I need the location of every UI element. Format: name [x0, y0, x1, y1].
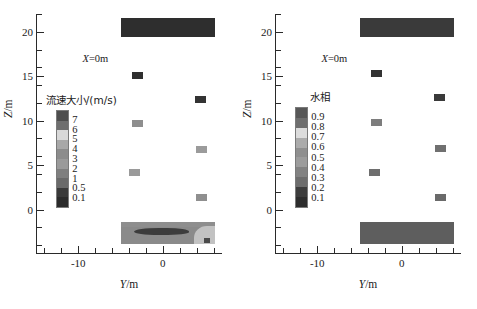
y-tick-minor	[276, 14, 281, 15]
x-tick-label: -10	[71, 258, 86, 269]
data-marker	[369, 169, 380, 176]
data-marker	[434, 94, 445, 101]
x-tick-minor	[95, 248, 96, 253]
colorbar-swatch	[57, 130, 68, 140]
x-tick-label: -10	[310, 258, 325, 269]
axis-title-y-left: Z/m	[2, 99, 14, 118]
colorbar-swatch	[296, 167, 307, 177]
region-top-slab	[360, 18, 455, 37]
data-marker	[132, 72, 143, 79]
y-tick-minor	[276, 227, 281, 228]
region-bottom-slab	[360, 222, 455, 244]
axis-title-x-right: Y/m	[275, 278, 461, 290]
x-tick-minor	[180, 248, 181, 253]
y-tick-major: 10	[276, 121, 283, 122]
data-marker	[435, 194, 446, 201]
data-marker	[196, 194, 207, 201]
colorbar-swatch	[57, 121, 68, 131]
axis-title-x-left: Y/m	[36, 278, 222, 290]
x-tick-minor	[385, 248, 386, 253]
x-axis-line-left	[36, 253, 222, 254]
y-tick-minor	[276, 138, 281, 139]
region-top-slab	[121, 18, 216, 37]
x-tick-label: 0	[160, 258, 166, 269]
colorbar-legend-right: 水相 0.90.80.70.60.50.40.30.20.1	[295, 107, 345, 208]
colorbar-swatch	[57, 169, 68, 179]
x-tick-major: 0	[402, 246, 403, 253]
y-tick-label: 5	[28, 160, 34, 171]
x-tick-minor	[44, 248, 45, 253]
colorbar-bar-right	[295, 107, 308, 208]
x-tick-minor	[368, 248, 369, 253]
data-marker	[371, 119, 382, 126]
y-tick-major: 5	[276, 165, 283, 166]
colorbar-bar-left	[56, 110, 69, 208]
region-bottom-slab	[121, 222, 216, 244]
x-tick-major: -10	[78, 246, 79, 253]
x-tick-minor	[61, 248, 62, 253]
colorbar-swatch	[296, 128, 307, 138]
y-tick-minor	[37, 156, 42, 157]
data-marker	[371, 70, 382, 77]
axis-title-y-right: Z/m	[241, 99, 253, 118]
y-tick-major: 5	[37, 165, 44, 166]
y-tick-major: 0	[37, 210, 44, 211]
y-tick-major: 15	[37, 76, 44, 77]
colorbar-labels-left: 76543210.50.1	[72, 110, 106, 208]
x-tick-minor	[146, 248, 147, 253]
colorbar-swatch	[296, 118, 307, 128]
colorbar-title-right: 水相	[310, 89, 330, 104]
colorbar-swatch	[57, 140, 68, 150]
colorbar-swatch	[296, 177, 307, 187]
y-tick-minor	[276, 245, 281, 246]
y-tick-label: 0	[267, 204, 273, 215]
y-tick-label: 0	[28, 204, 34, 215]
y-tick-minor	[276, 103, 281, 104]
colorbar-swatch	[57, 149, 68, 159]
y-tick-label: 5	[267, 160, 273, 171]
y-tick-minor	[37, 138, 42, 139]
x-tick-minor	[214, 248, 215, 253]
y-tick-label: 10	[261, 115, 272, 126]
x-tick-minor	[436, 248, 437, 253]
data-marker	[435, 145, 446, 152]
x-tick-minor	[453, 248, 454, 253]
colorbar-swatch	[296, 138, 307, 148]
x-tick-minor	[283, 248, 284, 253]
data-marker	[132, 120, 143, 127]
data-marker	[195, 96, 206, 103]
x-tick-minor	[112, 248, 113, 253]
y-tick-minor	[37, 174, 42, 175]
colorbar-swatch	[296, 197, 307, 207]
y-tick-minor	[37, 103, 42, 104]
y-tick-minor	[276, 50, 281, 51]
y-tick-minor	[276, 85, 281, 86]
y-tick-label: 15	[22, 71, 33, 82]
x-tick-minor	[300, 248, 301, 253]
x-tick-minor	[334, 248, 335, 253]
colorbar-labels-right: 0.90.80.70.60.50.40.30.20.1	[311, 107, 345, 208]
y-tick-minor	[37, 67, 42, 68]
panel-right-water-phase: Z/m Y/m 05101520-100X=0m 水相 0.90.80.70.6…	[239, 0, 477, 309]
y-tick-major: 10	[37, 121, 44, 122]
y-tick-minor	[276, 174, 281, 175]
colorbar-swatch	[57, 188, 68, 198]
colorbar-tick-label: 0.1	[72, 193, 85, 204]
x-tick-minor	[419, 248, 420, 253]
annotation-x-plane: X=0m	[83, 53, 109, 64]
colorbar-swatch	[57, 111, 68, 121]
figure-root: Z/m Y/m 05101520-100X=0m 流速大小/(m/s) 7654…	[0, 0, 477, 309]
y-tick-major: 0	[276, 210, 283, 211]
y-tick-minor	[37, 14, 42, 15]
y-tick-label: 10	[22, 115, 33, 126]
contour-dark-band	[134, 228, 189, 235]
y-tick-major: 15	[276, 76, 283, 77]
colorbar-swatch	[296, 187, 307, 197]
x-tick-minor	[197, 248, 198, 253]
y-tick-label: 20	[22, 26, 33, 37]
panel-left-velocity: Z/m Y/m 05101520-100X=0m 流速大小/(m/s) 7654…	[0, 0, 238, 309]
x-tick-major: -10	[317, 246, 318, 253]
y-tick-minor	[37, 227, 42, 228]
x-tick-major: 0	[163, 246, 164, 253]
contour-dark-speck	[204, 238, 211, 243]
